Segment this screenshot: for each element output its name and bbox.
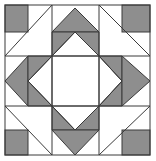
corner-square-bottom-right xyxy=(122,130,150,155)
center-diamond xyxy=(28,32,122,130)
corner-square-top-right xyxy=(122,5,150,32)
goose-bottom-inner xyxy=(52,106,99,130)
goose-left-outer xyxy=(5,56,28,106)
quilt-block-svg xyxy=(0,0,156,161)
goose-bottom-outer xyxy=(52,130,99,155)
center-square xyxy=(52,56,99,106)
goose-top-inner xyxy=(52,32,99,56)
goose-right-outer xyxy=(122,56,150,106)
goose-left-inner xyxy=(28,56,52,106)
corner-square-top-left xyxy=(5,5,28,32)
goose-right-inner xyxy=(99,56,122,106)
goose-top-outer xyxy=(52,8,99,32)
quilt-block-figure xyxy=(0,0,156,161)
corner-square-bottom-left xyxy=(5,130,28,155)
